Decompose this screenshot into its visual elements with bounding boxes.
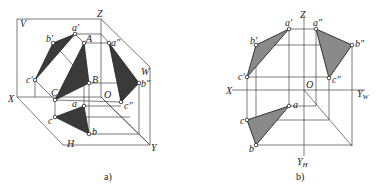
label-c-prime: c' — [26, 74, 33, 85]
label-z: Z — [300, 9, 306, 20]
caption-b: b) — [296, 171, 304, 183]
label-b: b — [249, 143, 254, 154]
label-a-dprime: a″ — [313, 17, 323, 28]
label-a-prime: a' — [285, 17, 293, 28]
label-x: X — [225, 85, 233, 96]
label-b: b — [92, 126, 97, 137]
projection-figures: V Z X O W H Y a' b' c' A B C a″ b″ c″ a … — [0, 0, 385, 189]
label-a: a — [293, 99, 298, 110]
miter-line — [304, 90, 352, 146]
label-b-prime: b' — [46, 33, 54, 44]
label-b-dprime: b″ — [141, 78, 151, 89]
top-view-triangle — [247, 106, 289, 145]
label-z: Z — [97, 8, 103, 19]
label-o: O — [104, 89, 111, 100]
label-yh: YH — [297, 156, 309, 169]
label-v: V — [20, 18, 28, 29]
label-y: Y — [151, 142, 158, 153]
caption-a: a) — [104, 171, 112, 183]
label-b-prime: b' — [250, 35, 258, 46]
label-B: B — [92, 74, 98, 85]
label-C: C — [51, 87, 58, 98]
label-a: a — [72, 98, 77, 109]
label-c: c — [48, 115, 53, 126]
figure-b: Z X O YW YH a' b' c' a″ b″ c″ a c b b) — [225, 9, 370, 183]
label-a-prime: a' — [72, 22, 80, 33]
label-w: W — [141, 66, 151, 77]
label-c-prime: c' — [238, 71, 245, 82]
label-x: X — [7, 93, 15, 104]
figure-a: V Z X O W H Y a' b' c' A B C a″ b″ c″ a … — [7, 8, 158, 183]
label-c-dprime: c″ — [124, 100, 133, 111]
label-o: O — [306, 79, 313, 90]
label-b-dprime: b″ — [355, 38, 365, 49]
label-c: c — [240, 115, 245, 126]
v-plane — [17, 19, 101, 97]
label-A: A — [85, 33, 93, 44]
side-view-triangle — [316, 29, 352, 78]
label-a-dprime: a″ — [111, 37, 121, 48]
label-c-dprime: c″ — [332, 74, 341, 85]
label-h: H — [66, 138, 75, 149]
triangle-h-projection — [55, 106, 89, 134]
